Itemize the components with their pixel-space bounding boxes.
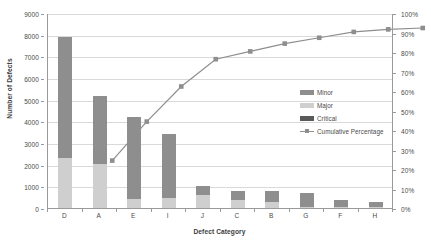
y2-axis-tick-label: 30% (401, 147, 414, 154)
y-axis-tick-mark (41, 187, 44, 188)
y2-axis-tick-mark (393, 209, 396, 210)
bar-segment-major (127, 199, 141, 208)
x-axis-category-label: H (372, 212, 377, 219)
bar-segment-minor (162, 134, 176, 198)
x-axis-title: Defect Category (47, 228, 392, 235)
y2-axis-tick-mark (393, 14, 396, 15)
y-axis-tick-mark (41, 57, 44, 58)
y2-axis-tick-label: 20% (401, 167, 414, 174)
cumulative-line-marker[interactable] (351, 30, 356, 35)
bar-segment-minor (369, 202, 383, 207)
cumulative-line-marker[interactable] (248, 49, 253, 54)
x-axis-category-label: D (62, 212, 67, 219)
y2-axis-tick-mark (393, 34, 396, 35)
y2-axis-tick-label: 90% (401, 30, 414, 37)
bar-segment-minor (196, 186, 210, 195)
legend-item[interactable]: Critical (300, 112, 406, 125)
bar-group[interactable] (231, 13, 245, 208)
legend-item-label: Minor (317, 89, 333, 96)
y2-axis-tick-label: 80% (401, 50, 414, 57)
y-axis-tick-label: 8000 (24, 32, 39, 39)
x-axis-category-label: A (97, 212, 101, 219)
bar-segment-major (93, 164, 107, 208)
bar-group[interactable] (162, 13, 176, 208)
y2-axis-tick-mark (393, 190, 396, 191)
bar-segment-minor (93, 96, 107, 163)
bar-segment-minor (300, 193, 314, 206)
bar-segment-minor (334, 200, 348, 208)
y-axis-tick-mark (41, 36, 44, 37)
cumulative-line-marker[interactable] (386, 27, 391, 32)
y2-axis-tick-label: 0% (401, 206, 411, 213)
bar-segment-major (231, 200, 245, 208)
bar-segment-major (196, 195, 210, 208)
bar-segment-minor (231, 191, 245, 201)
bar-group[interactable] (127, 13, 141, 208)
x-axis-category-label: I (167, 212, 169, 219)
legend-line-icon (300, 128, 314, 135)
y-axis-tick-label: 1000 (24, 184, 39, 191)
cumulative-line-marker[interactable] (110, 158, 115, 163)
y2-axis-tick-mark (393, 170, 396, 171)
y-axis-tick-label: 3000 (24, 141, 39, 148)
y-axis-tick-mark (41, 144, 44, 145)
x-axis-category-label: J (201, 212, 204, 219)
y-axis-tick-mark (41, 101, 44, 102)
y-axis-tick-label: 0 (35, 206, 39, 213)
y-axis-left: 0100020003000400050006000700080009000 (0, 14, 44, 209)
x-axis-category-label: G (303, 212, 308, 219)
bar-group[interactable] (58, 13, 72, 208)
y-axis-tick-mark (41, 14, 44, 15)
legend-item[interactable]: Minor (300, 86, 406, 99)
legend-item-label: Major (317, 102, 333, 109)
x-axis-tick-mark (392, 209, 393, 212)
bar-group[interactable] (93, 13, 107, 208)
y2-axis-tick-label: 70% (401, 69, 414, 76)
bar-segment-major (162, 198, 176, 208)
y-axis-tick-label: 2000 (24, 162, 39, 169)
bar-segment-major (58, 158, 72, 208)
legend-item[interactable]: Major (300, 99, 406, 112)
y2-axis-tick-mark (393, 73, 396, 74)
y-axis-tick-label: 9000 (24, 11, 39, 18)
y-axis-tick-label: 5000 (24, 97, 39, 104)
y-axis-tick-label: 7000 (24, 54, 39, 61)
y2-axis-tick-mark (393, 151, 396, 152)
x-axis-labels: DAEIJCBGFH (47, 212, 392, 224)
legend-item-label: Critical (317, 115, 337, 122)
y2-axis-tick-label: 10% (401, 186, 414, 193)
legend-item-label: Cumulative Percentage (317, 128, 384, 135)
y-axis-tick-mark (41, 166, 44, 167)
x-axis-category-label: C (234, 212, 239, 219)
bar-segment-minor (265, 191, 279, 202)
legend-swatch-icon (300, 116, 314, 121)
y-axis-tick-mark (41, 209, 44, 210)
bar-segment-major (334, 207, 348, 208)
bar-segment-minor (127, 117, 141, 199)
y-axis-tick-mark (41, 79, 44, 80)
bar-segment-major (300, 207, 314, 208)
bar-segment-major (265, 202, 279, 209)
chart-legend: MinorMajorCriticalCumulative Percentage (300, 86, 406, 138)
bar-group[interactable] (265, 13, 279, 208)
x-axis-category-label: F (338, 212, 342, 219)
bar-group[interactable] (196, 13, 210, 208)
legend-swatch-icon (300, 103, 314, 108)
y-axis-tick-label: 4000 (24, 119, 39, 126)
y-axis-tick-mark (41, 122, 44, 123)
bar-segment-major (369, 207, 383, 208)
x-axis-category-label: B (269, 212, 273, 219)
bar-segment-minor (58, 37, 72, 158)
cumulative-line-marker[interactable] (282, 41, 287, 46)
cumulative-line-marker[interactable] (179, 84, 184, 89)
legend-item[interactable]: Cumulative Percentage (300, 125, 406, 138)
pareto-chart: Number of Defects 0100020003000400050006… (0, 0, 431, 245)
legend-swatch-icon (300, 90, 314, 95)
x-axis-category-label: E (131, 212, 135, 219)
y2-axis-tick-mark (393, 53, 396, 54)
y-axis-tick-label: 6000 (24, 76, 39, 83)
y2-axis-tick-label: 100% (401, 11, 418, 18)
